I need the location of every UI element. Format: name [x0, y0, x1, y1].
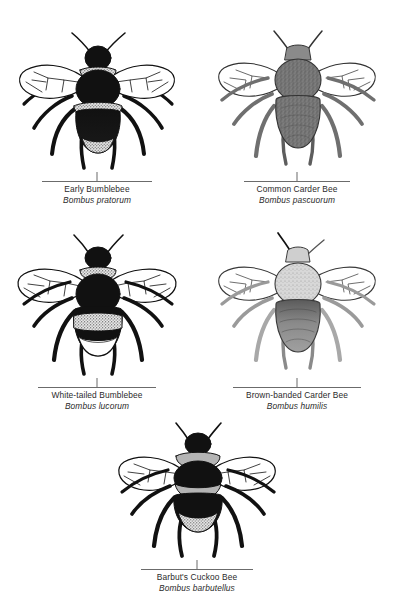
species-card-white-tailed-bumblebee[interactable]: White-tailed Bumblebee Bombus lucorum	[12, 228, 182, 412]
species-card-barbuts-cuckoo-bee[interactable]: Barbut's Cuckoo Bee Bombus barbutellus	[112, 420, 282, 594]
label-rule-group	[233, 378, 361, 389]
label-rule	[244, 181, 350, 182]
common-name: Common Carder Bee	[257, 184, 338, 195]
scientific-name: Bombus barbutellus	[159, 583, 235, 594]
species-label: White-tailed Bumblebee Bombus lucorum	[12, 378, 182, 412]
label-tick	[297, 378, 298, 387]
scientific-name: Bombus humilis	[267, 401, 328, 412]
label-rule-group	[141, 560, 253, 571]
label-rule-group	[38, 378, 156, 389]
bee-illustration-icon	[12, 228, 182, 378]
species-label: Common Carder Bee Bombus pascuorum	[212, 172, 382, 206]
scientific-name: Bombus lucorum	[65, 401, 129, 412]
species-card-common-carder-bee[interactable]: Common Carder Bee Bombus pascuorum	[212, 22, 382, 206]
label-rule	[233, 387, 361, 388]
bee-illustration-icon	[12, 22, 182, 172]
label-tick	[197, 560, 198, 569]
identification-plate: Early Bumblebee Bombus pratorum	[0, 0, 399, 613]
label-tick	[297, 172, 298, 181]
common-name: Barbut's Cuckoo Bee	[157, 572, 237, 583]
species-label: Brown-banded Carder Bee Bombus humilis	[212, 378, 382, 412]
common-name: Brown-banded Carder Bee	[246, 390, 348, 401]
bee-illustration-icon	[212, 228, 382, 378]
label-rule-group	[42, 172, 152, 183]
label-rule	[42, 181, 152, 182]
scientific-name: Bombus pascuorum	[259, 195, 335, 206]
label-rule	[38, 387, 156, 388]
species-label: Early Bumblebee Bombus pratorum	[12, 172, 182, 206]
label-tick	[97, 378, 98, 387]
bee-illustration-icon	[212, 22, 382, 172]
scientific-name: Bombus pratorum	[63, 195, 131, 206]
species-card-early-bumblebee[interactable]: Early Bumblebee Bombus pratorum	[12, 22, 182, 206]
species-card-brown-banded-carder-bee[interactable]: Brown-banded Carder Bee Bombus humilis	[212, 228, 382, 412]
common-name: Early Bumblebee	[64, 184, 129, 195]
common-name: White-tailed Bumblebee	[51, 390, 142, 401]
label-rule-group	[244, 172, 350, 183]
label-rule	[141, 569, 253, 570]
bee-illustration-icon	[112, 420, 282, 560]
label-tick	[97, 172, 98, 181]
species-label: Barbut's Cuckoo Bee Bombus barbutellus	[112, 560, 282, 594]
